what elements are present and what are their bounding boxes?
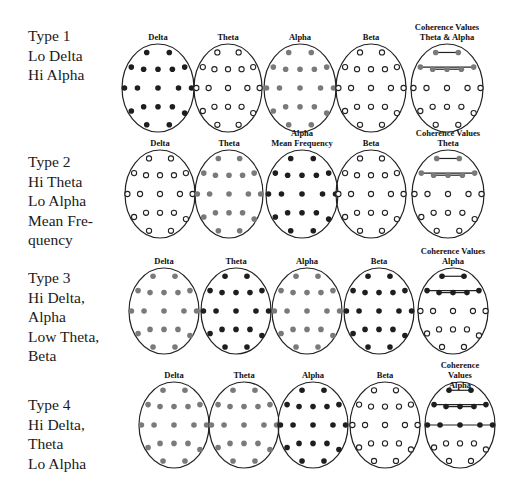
electrode-dot-filled <box>266 308 272 314</box>
electrode-dot-filled <box>356 308 362 314</box>
electrode-dot-open <box>433 122 438 127</box>
head-map-2-beta <box>336 150 406 238</box>
electrode-dot-filled <box>299 172 305 178</box>
map-title: Theta <box>217 32 238 42</box>
electrode-dot-filled <box>290 290 296 296</box>
electrode-dot-open <box>456 122 461 127</box>
electrode-dot-filled <box>182 387 188 393</box>
electrode-dot-filled <box>216 156 222 162</box>
electrode-dot-open <box>382 104 387 109</box>
electrode-dot-open <box>445 191 450 196</box>
electrode-dot-filled <box>185 441 191 447</box>
map-title: Theta <box>225 256 246 266</box>
electrode-dot-filled <box>237 156 243 162</box>
electrode-dot-open <box>171 173 176 178</box>
map-title: Coherence Values Theta & Alpha <box>415 22 479 42</box>
electrode-dot-open <box>418 308 423 313</box>
electrode-dot-filled <box>324 110 330 116</box>
electrode-dot-filled <box>273 214 279 220</box>
electrode-dot-filled <box>483 402 489 408</box>
electrode-dot-filled <box>135 85 141 91</box>
electrode-dot-filled <box>244 344 250 350</box>
electrode-dot-filled <box>141 104 147 110</box>
electrode-dot-filled <box>350 331 356 337</box>
electrode-dot-filled <box>258 191 264 197</box>
electrode-dot-open <box>212 104 217 109</box>
electrode-dot-open <box>379 228 384 233</box>
electrode-dot-filled <box>141 66 147 72</box>
electrode-dot-filled <box>181 308 187 314</box>
electrode-dot-open <box>168 228 173 233</box>
electrode-dot-filled <box>171 404 177 410</box>
electrode-dot-open <box>402 422 407 427</box>
electrode-dot-filled <box>230 458 236 464</box>
electrode-dot-filled <box>296 441 302 447</box>
electrode-dot-open <box>394 110 399 115</box>
electrode-dot-filled <box>172 273 178 279</box>
electrode-dot-open <box>368 441 373 446</box>
head-map-3-alpha <box>272 268 343 354</box>
map-title: Beta <box>377 370 394 380</box>
map-title: Delta <box>154 256 173 266</box>
head-map-2-coherence-values <box>412 150 484 238</box>
electrode-dot-filled <box>194 308 200 314</box>
electrode-dot-filled <box>288 228 294 234</box>
electrode-dot-filled <box>459 66 465 72</box>
electrode-dot-open <box>465 85 470 90</box>
electrode-dot-filled <box>362 290 368 296</box>
electrode-dot-filled <box>376 327 382 333</box>
electrode-dot-filled <box>457 404 463 410</box>
electrode-dot-filled <box>226 191 232 197</box>
electrode-dot-filled <box>227 441 233 447</box>
electrode-dot-open <box>382 441 387 446</box>
electrode-dot-filled <box>336 402 342 408</box>
electrode-dot-filled <box>445 172 451 178</box>
electrode-dot-open <box>177 191 182 196</box>
electrode-dot-open <box>357 122 362 127</box>
head-map-1-delta <box>122 44 195 132</box>
electrode-dot-filled <box>299 458 305 464</box>
electrode-dot-filled <box>240 172 246 178</box>
electrode-dot-open <box>471 441 476 446</box>
electrode-dot-open <box>483 308 488 313</box>
map-title: Beta <box>363 32 380 42</box>
electrode-dot-filled <box>437 422 443 428</box>
electrode-dot-filled <box>157 441 163 447</box>
electrode-dot-filled <box>241 441 247 447</box>
electrode-dot-filled <box>330 288 336 294</box>
map-title: Alpha Mean Frequency <box>271 128 332 148</box>
electrode-dot-filled <box>324 441 330 447</box>
electrode-dot-open <box>342 65 347 70</box>
electrode-dot-open <box>183 216 188 221</box>
electrode-dot-open <box>371 458 376 463</box>
electrode-dot-open <box>368 67 373 72</box>
electrode-dot-open <box>168 156 173 161</box>
electrode-dot-open <box>348 85 353 90</box>
electrode-dot-filled <box>157 404 163 410</box>
electrode-dot-filled <box>197 402 203 408</box>
head-map-3-coherence-values <box>418 268 488 354</box>
electrode-dot-filled <box>255 404 261 410</box>
electrode-dot-filled <box>233 327 239 333</box>
electrode-dot-filled <box>286 122 292 128</box>
electrode-dot-filled <box>434 156 440 162</box>
electrode-dot-filled <box>251 216 257 222</box>
electrode-dot-filled <box>182 458 188 464</box>
electrode-dot-filled <box>226 210 232 216</box>
electrode-dot-filled <box>365 344 371 350</box>
electrode-dot-filled <box>161 308 167 314</box>
electrode-dot-open <box>200 65 205 70</box>
electrode-dot-filled <box>324 64 330 70</box>
head-map-2-theta <box>195 150 264 238</box>
electrode-dot-open <box>459 104 464 109</box>
electrode-dot-filled <box>253 308 259 314</box>
electrode-dot-filled <box>175 290 181 296</box>
electrode-dot-filled <box>299 387 305 393</box>
electrode-dot-filled <box>430 66 436 72</box>
electrode-dot-filled <box>315 273 321 279</box>
electrode-dot-filled <box>464 290 470 296</box>
electrode-dot-open <box>357 50 362 55</box>
electrode-dot-filled <box>279 191 285 197</box>
electrode-dot-filled <box>277 85 283 91</box>
electrode-dot-open <box>393 388 398 393</box>
